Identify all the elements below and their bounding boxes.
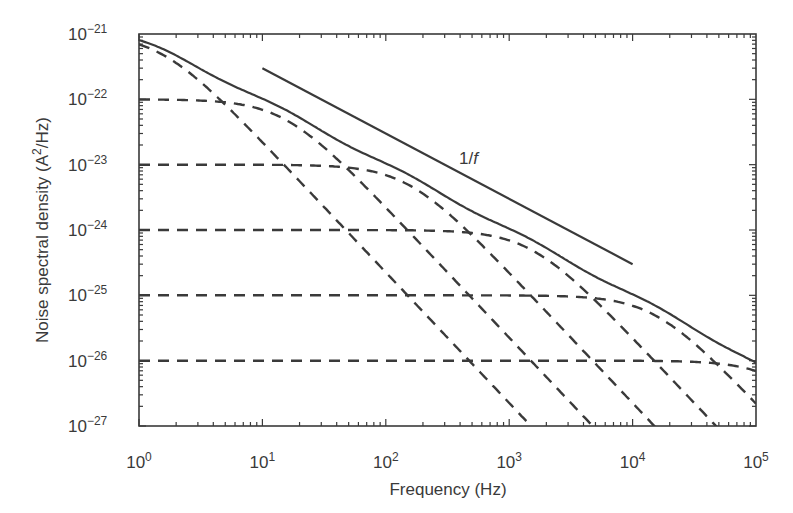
x-tick-label: 100 (126, 450, 152, 472)
y-axis-label: Noise spectral density (A2/Hz) (30, 117, 52, 343)
x-tick-label: 103 (496, 450, 522, 472)
plot-lines (139, 40, 756, 491)
y-tick-labels: 10−2110−2210−2310−2410−2510−2610−27 (68, 22, 108, 436)
total-noise-curve (139, 40, 756, 362)
y-axis-label-post: /Hz) (33, 117, 52, 148)
x-tick-label: 101 (250, 450, 276, 472)
y-tick-label: 10−27 (68, 414, 108, 436)
x-tick-label: 102 (373, 450, 399, 472)
lorentzian-component-1 (139, 44, 756, 491)
spectral-density-chart: 100101102103104105 10−2110−2210−2310−241… (0, 0, 793, 513)
y-tick-label: 10−26 (68, 349, 108, 371)
y-tick-label: 10−21 (68, 22, 108, 44)
y-tick-label: 10−24 (68, 218, 108, 240)
lorentzian-component-4 (139, 230, 756, 468)
x-tick-label: 104 (620, 450, 646, 472)
x-tick-label: 105 (743, 450, 769, 472)
lorentzian-component-3 (139, 165, 756, 492)
y-tick-label: 10−22 (68, 87, 108, 109)
x-axis-label: Frequency (Hz) (389, 480, 506, 499)
one-over-f-annotation: 1/f (459, 149, 480, 168)
y-tick-label: 10−25 (68, 283, 108, 305)
y-tick-label: 10−23 (68, 153, 108, 175)
x-tick-labels: 100101102103104105 (126, 450, 769, 472)
lorentzian-component-5 (139, 295, 756, 403)
y-axis-label-pre: Noise spectral density (A (33, 154, 52, 343)
